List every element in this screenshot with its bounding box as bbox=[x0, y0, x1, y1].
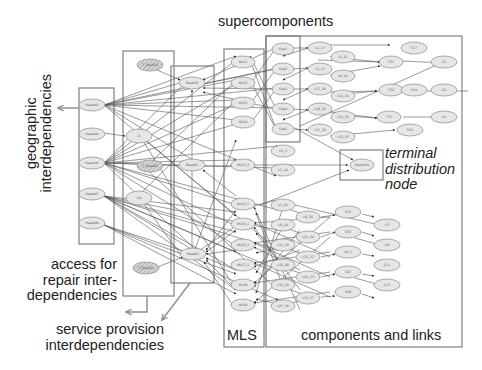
node-t53[interactable]: T53 bbox=[377, 111, 401, 123]
svg-text:L8_28: L8_28 bbox=[303, 215, 312, 219]
svg-text:C3: C3 bbox=[385, 223, 389, 227]
node-hazard6[interactable]: Hazard6 bbox=[79, 157, 105, 169]
node-c8[interactable]: C8 bbox=[374, 239, 400, 251]
node-c2[interactable]: C2 bbox=[431, 84, 457, 96]
node-l32-34[interactable]: L32_34 bbox=[271, 279, 295, 291]
node-l11-19[interactable]: L11_19 bbox=[271, 239, 295, 251]
node-l8-28[interactable]: L8_28 bbox=[296, 211, 320, 223]
svg-text:MLS5_1: MLS5_1 bbox=[237, 202, 249, 206]
node-troad18[interactable]: T_Road18 bbox=[137, 59, 163, 71]
svg-text:Sup3: Sup3 bbox=[279, 87, 287, 91]
access-repair-line2: repair inter- bbox=[27, 273, 117, 289]
svg-text:S15: S15 bbox=[345, 210, 351, 214]
node-l27-36[interactable]: L27_36 bbox=[271, 300, 295, 312]
node-l2-21[interactable]: L2_21 bbox=[331, 51, 355, 63]
svg-text:T_Road18: T_Road18 bbox=[141, 63, 158, 67]
node-s15[interactable]: S15 bbox=[335, 206, 361, 218]
node-mls5-2[interactable]: MLS5_2 bbox=[231, 159, 255, 171]
node-sup4[interactable]: Sup4 bbox=[272, 103, 294, 115]
service-provision-line1: service provision bbox=[45, 322, 164, 338]
svg-text:L8_14: L8_14 bbox=[278, 223, 287, 227]
svg-text:MLS2: MLS2 bbox=[239, 81, 248, 85]
node-sup5[interactable]: Sup5 bbox=[272, 123, 294, 135]
node-sup2[interactable]: Sup2 bbox=[272, 63, 294, 75]
svg-text:L9_36: L9_36 bbox=[338, 74, 347, 78]
node-road18[interactable]: Road18 bbox=[179, 77, 205, 89]
node-l1-17[interactable]: L1_17 bbox=[308, 42, 332, 54]
node-g4-1[interactable]: G4_1 bbox=[335, 246, 361, 258]
node-hazard7[interactable]: Hazard7 bbox=[79, 188, 105, 200]
service-provision-arrow bbox=[162, 283, 190, 320]
node-l16-34[interactable]: L16_34 bbox=[331, 90, 355, 102]
node-road22[interactable]: Road22 bbox=[179, 159, 205, 171]
node-l9-36[interactable]: L9_36 bbox=[331, 70, 355, 82]
svg-text:Road18: Road18 bbox=[186, 81, 198, 85]
node-hazard1[interactable]: Hazard1 bbox=[79, 99, 105, 111]
node-l18-32[interactable]: L18_32 bbox=[308, 103, 332, 115]
node-mls5-1[interactable]: MLS5_1 bbox=[231, 198, 255, 210]
node-c4[interactable]: C4 bbox=[431, 111, 457, 123]
node-l3-13[interactable]: L3_13 bbox=[308, 63, 332, 75]
service-provision-line2: interdependencies bbox=[45, 338, 164, 354]
node-l17-18[interactable]: L17_18 bbox=[308, 83, 332, 95]
node-mls8[interactable]: MLS8 bbox=[231, 299, 255, 311]
node-l23-37[interactable]: L23_37 bbox=[296, 251, 320, 263]
node-mls3[interactable]: MLS3 bbox=[231, 97, 255, 109]
node-s33[interactable]: S33 bbox=[335, 226, 361, 238]
node-l33-37[interactable]: L33_37 bbox=[296, 292, 320, 304]
svg-text:T_Road21: T_Road21 bbox=[137, 266, 154, 270]
node-s27[interactable]: S27 bbox=[335, 266, 361, 278]
node-l31-32[interactable]: L31_32 bbox=[308, 124, 332, 136]
supercomponents-label: supercomponents bbox=[218, 14, 333, 30]
node-c3[interactable]: C3 bbox=[374, 219, 400, 231]
node-mls6-1[interactable]: MLS6_1 bbox=[231, 218, 255, 230]
node-c13[interactable]: C13 bbox=[374, 279, 400, 291]
node-mls4[interactable]: MLS4 bbox=[231, 116, 255, 128]
svg-text:MLS6_1: MLS6_1 bbox=[237, 222, 249, 226]
node-l1-22[interactable]: L1_22 bbox=[271, 199, 295, 211]
node-memphis[interactable]: Memphis bbox=[350, 159, 374, 171]
node-i1[interactable]: I1 bbox=[126, 129, 152, 143]
node-sup1[interactable]: Sup1 bbox=[272, 43, 294, 55]
node-s36[interactable]: S36 bbox=[397, 124, 423, 136]
svg-text:C1: C1 bbox=[442, 60, 446, 64]
svg-text:L18_32: L18_32 bbox=[314, 107, 325, 111]
svg-text:L33_37: L33_37 bbox=[302, 296, 313, 300]
node-l8-14[interactable]: L8_14 bbox=[271, 219, 295, 231]
node-l26-33[interactable]: L26_33 bbox=[296, 271, 320, 283]
node-hazard9[interactable]: Hazard9 bbox=[79, 217, 105, 229]
svg-text:L27_36: L27_36 bbox=[277, 304, 288, 308]
node-mls2[interactable]: MLS2 bbox=[231, 77, 255, 89]
svg-text:C13: C13 bbox=[384, 283, 390, 287]
node-t51[interactable]: T51 bbox=[379, 56, 403, 68]
svg-text:T52: T52 bbox=[387, 88, 394, 92]
node-i16[interactable]: I16 bbox=[126, 191, 152, 205]
node-s17[interactable]: S17 bbox=[401, 42, 427, 54]
node-s39[interactable]: S39 bbox=[335, 286, 361, 298]
node-mls1[interactable]: MLS1 bbox=[231, 56, 255, 68]
node-g1-3[interactable]: G1_3 bbox=[271, 145, 295, 157]
geographic-label-line1: geographic bbox=[24, 58, 39, 208]
node-l1-10[interactable]: L1_10 bbox=[271, 164, 295, 176]
node-s34[interactable]: S34 bbox=[401, 84, 427, 96]
node-l32-33[interactable]: L32_33 bbox=[331, 131, 355, 143]
node-hazard4[interactable]: Hazard4 bbox=[79, 128, 105, 140]
svg-text:L34_36: L34_36 bbox=[337, 115, 348, 119]
node-sup3[interactable]: Sup3 bbox=[272, 83, 294, 95]
node-l34-36[interactable]: L34_36 bbox=[331, 111, 355, 123]
node-road21[interactable]: Road21 bbox=[180, 248, 206, 260]
node-troad22[interactable]: T_Road22 bbox=[137, 160, 163, 172]
svg-text:Hazard7: Hazard7 bbox=[85, 192, 98, 196]
node-l22-28[interactable]: L22_28 bbox=[271, 259, 295, 271]
svg-text:S36: S36 bbox=[407, 128, 413, 132]
svg-text:Sup2: Sup2 bbox=[279, 67, 287, 71]
node-t52[interactable]: T52 bbox=[379, 84, 403, 96]
node-mls7-1[interactable]: MLS7_1 bbox=[231, 259, 255, 271]
node-c1[interactable]: C1 bbox=[431, 56, 457, 68]
node-mls6-2[interactable]: MLS6_2 bbox=[231, 239, 255, 251]
node-troad21[interactable]: T_Road21 bbox=[133, 262, 159, 274]
node-c11[interactable]: C11 bbox=[374, 259, 400, 271]
svg-text:T51: T51 bbox=[387, 60, 394, 64]
node-l21-34[interactable]: L21_34 bbox=[296, 231, 320, 243]
node-mls9[interactable]: MLS9 bbox=[231, 279, 255, 291]
